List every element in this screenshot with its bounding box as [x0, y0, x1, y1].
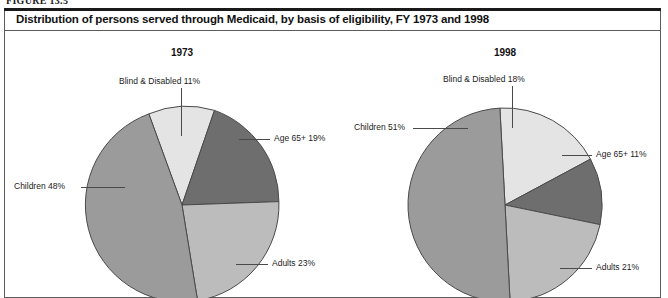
label-children-1973: Children 48%: [14, 181, 65, 191]
label-blind-disabled-1973: Blind & Disabled 11%: [119, 76, 200, 86]
label-blind-disabled-1998: Blind & Disabled 18%: [443, 74, 525, 84]
leader-blind-disabled-1973: [181, 88, 182, 136]
leader-children-1998: [413, 128, 468, 129]
slice-adults-1973: [182, 202, 279, 298]
label-age65-1973: Age 65+ 19%: [274, 133, 325, 143]
pie-panel-1973: 1973 Blind & Disabled 11% Age 65+ 19% Ch…: [0, 0, 340, 293]
pie-panel-1998: 1998 Blind & Disabled 18% Children 51% A…: [340, 0, 668, 293]
leader-age65-1998: [562, 155, 592, 156]
label-adults-1998: Adults 21%: [596, 262, 639, 272]
leader-age65-1973: [239, 139, 270, 140]
label-adults-1973: Adults 23%: [272, 258, 315, 268]
label-age65-1998: Age 65+ 11%: [596, 149, 647, 159]
pie-chart-1973: [0, 0, 340, 293]
slice-children-1998: [408, 108, 510, 298]
leader-adults-1998: [560, 268, 592, 269]
label-children-1998: Children 51%: [354, 122, 405, 132]
leader-adults-1973: [236, 264, 268, 265]
leader-blind-disabled-1998: [512, 86, 513, 128]
leader-children-1973: [81, 187, 125, 188]
pie-chart-1998: [340, 0, 668, 293]
